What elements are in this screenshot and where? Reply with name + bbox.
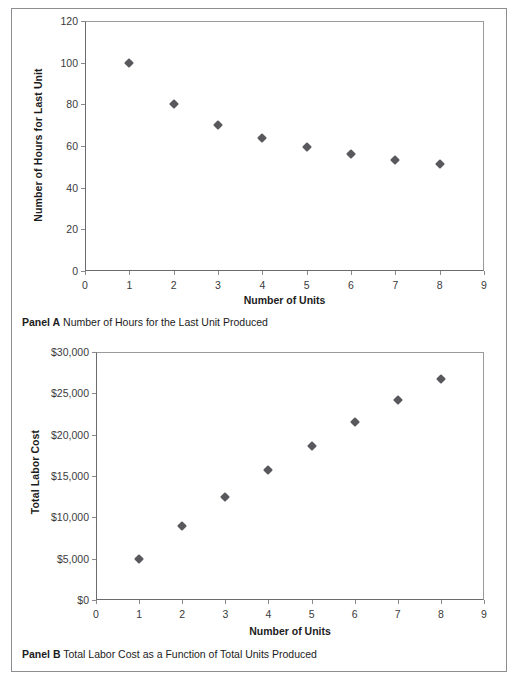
x-axis-tick-label: 3: [215, 279, 221, 291]
y-axis-tick-label: 0: [72, 265, 78, 277]
x-axis-tick: [96, 600, 97, 604]
panel-a-x-axis-title: Number of Units: [85, 294, 484, 306]
panel-b-x-axis-title: Number of Units: [96, 625, 484, 637]
panel-a-caption: Panel A Number of Hours for the Last Uni…: [22, 316, 268, 328]
x-axis-tick: [440, 271, 441, 275]
panel-b-caption-text: Total Labor Cost as a Function of Total …: [63, 648, 317, 660]
x-axis-tick-label: 7: [395, 608, 401, 620]
y-axis-tick-label: $15,000: [51, 470, 89, 482]
x-axis-tick: [484, 600, 485, 604]
figure-container: Number of Hours for Last Unit Number of …: [0, 0, 517, 682]
x-axis-tick-label: 2: [179, 608, 185, 620]
x-axis-tick: [218, 271, 219, 275]
y-axis-tick-label: $5,000: [57, 553, 89, 565]
x-axis-tick-label: 2: [171, 279, 177, 291]
x-axis-tick-label: 8: [438, 608, 444, 620]
y-axis-tick-label: $20,000: [51, 429, 89, 441]
panel-b-plot-area: [96, 352, 484, 600]
y-axis-tick: [81, 146, 85, 147]
panel-b-y-axis-title: Total Labor Cost: [29, 372, 41, 572]
x-axis-tick: [395, 271, 396, 275]
panel-a-plot-area: [85, 21, 484, 271]
y-axis-tick-label: 40: [66, 182, 78, 194]
y-axis-tick-label: 120: [60, 15, 78, 27]
y-axis-tick-label: 100: [60, 57, 78, 69]
x-axis-tick: [129, 271, 130, 275]
x-axis-tick-label: 4: [259, 279, 265, 291]
x-axis-tick: [398, 600, 399, 604]
x-axis-tick-label: 1: [136, 608, 142, 620]
y-axis-tick-label: 20: [66, 223, 78, 235]
y-axis-tick: [92, 559, 96, 560]
y-axis-tick: [81, 21, 85, 22]
x-axis-tick-label: 6: [352, 608, 358, 620]
x-axis-tick: [307, 271, 308, 275]
panel-a-caption-text: Number of Hours for the Last Unit Produc…: [63, 316, 268, 328]
y-axis-tick-label: $25,000: [51, 387, 89, 399]
x-axis-tick-label: 6: [348, 279, 354, 291]
x-axis-tick-label: 9: [481, 608, 487, 620]
x-axis-tick: [268, 600, 269, 604]
x-axis-tick: [225, 600, 226, 604]
x-axis-tick-label: 8: [437, 279, 443, 291]
x-axis-tick-label: 4: [266, 608, 272, 620]
x-axis-tick: [484, 271, 485, 275]
x-axis-tick-label: 5: [304, 279, 310, 291]
y-axis-tick: [92, 435, 96, 436]
x-axis-tick: [174, 271, 175, 275]
y-axis-tick-label: $10,000: [51, 511, 89, 523]
x-axis-tick-label: 5: [309, 608, 315, 620]
panel-a-y-axis-title: Number of Hours for Last Unit: [32, 45, 44, 245]
x-axis-tick: [351, 271, 352, 275]
x-axis-tick: [85, 271, 86, 275]
x-axis-tick-label: 0: [82, 279, 88, 291]
y-axis-tick-label: $30,000: [51, 346, 89, 358]
panel-b-caption-label: Panel B: [22, 648, 61, 660]
x-axis-tick: [312, 600, 313, 604]
x-axis-tick-label: 3: [222, 608, 228, 620]
x-axis-tick-label: 7: [392, 279, 398, 291]
y-axis-tick: [92, 393, 96, 394]
panel-a: Number of Hours for Last Unit Number of …: [11, 8, 507, 330]
x-axis-tick: [262, 271, 263, 275]
x-axis-tick: [182, 600, 183, 604]
y-axis-tick-label: $0: [77, 594, 89, 606]
y-axis-tick: [92, 476, 96, 477]
y-axis-tick-label: 60: [66, 140, 78, 152]
y-axis-tick: [81, 63, 85, 64]
x-axis-tick: [355, 600, 356, 604]
panel-a-caption-label: Panel A: [22, 316, 60, 328]
y-axis-tick: [81, 229, 85, 230]
y-axis-tick: [81, 104, 85, 105]
x-axis-tick-label: 1: [126, 279, 132, 291]
y-axis-tick-label: 80: [66, 98, 78, 110]
x-axis-tick: [139, 600, 140, 604]
x-axis-tick-label: 0: [93, 608, 99, 620]
y-axis-tick: [92, 517, 96, 518]
y-axis-tick: [81, 188, 85, 189]
panel-b: Total Labor Cost Number of Units Panel B…: [11, 338, 507, 672]
x-axis-tick: [441, 600, 442, 604]
y-axis-tick: [92, 352, 96, 353]
x-axis-tick-label: 9: [481, 279, 487, 291]
panel-b-caption: Panel B Total Labor Cost as a Function o…: [22, 648, 317, 660]
